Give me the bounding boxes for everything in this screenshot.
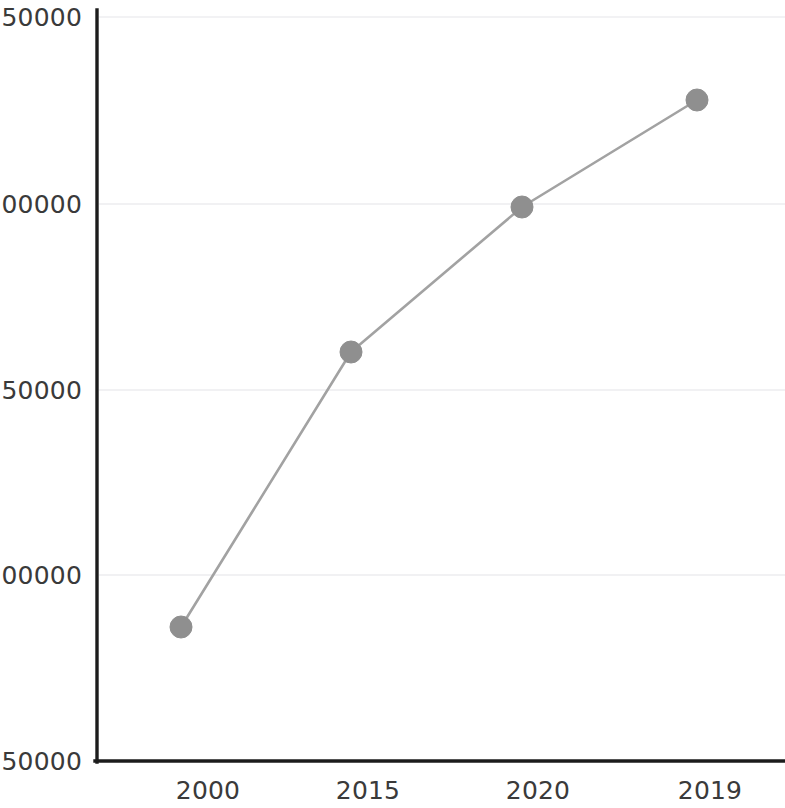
data-point-marker[interactable] (511, 196, 533, 218)
y-tick-label-200000: 200000 (0, 563, 82, 588)
line-chart: 350000 300000 250000 200000 150000 2000 … (0, 0, 785, 808)
data-point-marker[interactable] (686, 89, 708, 111)
x-tick-label-2019: 2019 (650, 778, 770, 803)
data-point-marker[interactable] (170, 616, 192, 638)
x-tick-label-2015: 2015 (308, 778, 428, 803)
y-tick-label-350000: 350000 (0, 5, 82, 30)
x-tick-label-2020: 2020 (478, 778, 598, 803)
data-point-marker[interactable] (340, 341, 362, 363)
y-tick-label-150000: 150000 (0, 749, 82, 774)
x-tick-label-2000: 2000 (148, 778, 268, 803)
y-tick-label-250000: 250000 (0, 378, 82, 403)
chart-background (0, 0, 785, 808)
chart-canvas (0, 0, 785, 808)
y-tick-label-300000: 300000 (0, 192, 82, 217)
